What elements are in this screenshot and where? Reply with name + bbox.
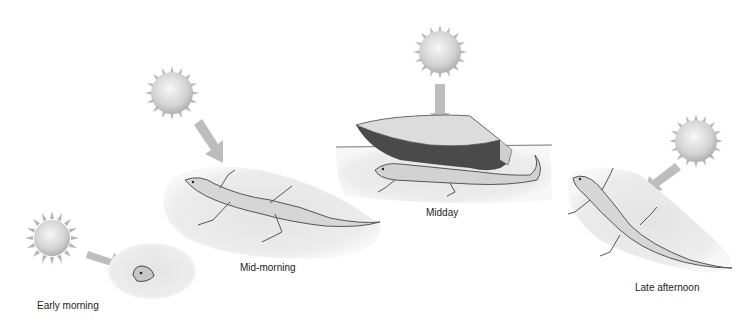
sun-icon (25, 211, 79, 265)
label-early-morning: Early morning (37, 300, 99, 311)
label-midday: Midday (426, 207, 458, 218)
label-late-afternoon: Late afternoon (635, 282, 700, 293)
panel-early-morning (25, 211, 196, 299)
sun-arrow (194, 119, 223, 163)
panel-late-afternoon (568, 114, 732, 272)
thermoregulation-illustration (0, 0, 753, 329)
sun-icon (669, 114, 723, 168)
sun-icon (145, 66, 199, 120)
sun-icon (413, 25, 467, 79)
panel-midday (336, 25, 552, 203)
label-mid-morning: Mid-morning (240, 262, 296, 273)
